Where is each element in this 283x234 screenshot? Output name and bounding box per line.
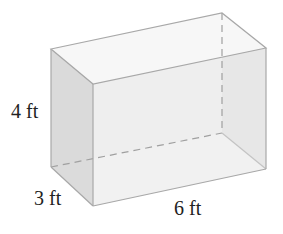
- length-label: 6 ft: [174, 197, 201, 220]
- depth-label: 3 ft: [34, 187, 61, 210]
- height-label: 4 ft: [11, 100, 38, 123]
